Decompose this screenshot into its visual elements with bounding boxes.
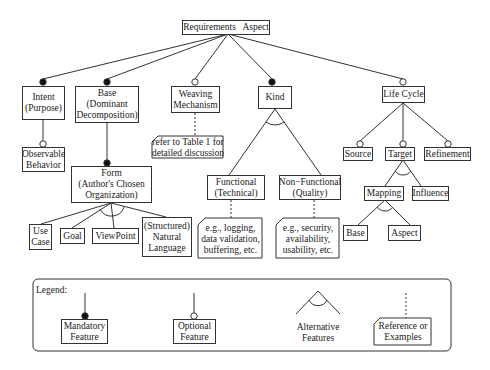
node-label: Behavior (26, 160, 61, 171)
edge-target-mapping (385, 160, 403, 186)
node-label: Kind (266, 92, 285, 103)
node-label: Source (345, 149, 371, 160)
edge-target-influence (403, 160, 421, 186)
node-viewpoint: ViewPoint (92, 228, 139, 244)
node-goal: Goal (60, 228, 85, 244)
note-text: data validation, (201, 234, 260, 245)
node-label: Life Cycle (383, 89, 423, 100)
node-label: Mapping (367, 188, 401, 199)
legend-label: Alternative (297, 322, 340, 333)
legend-label: Optional (178, 321, 211, 332)
edge-root-base (107, 34, 228, 79)
node-label: Functional (216, 177, 257, 188)
alt-arc-target (395, 171, 411, 175)
node-life-cycle: Life Cycle (382, 86, 425, 103)
node-label: Goal (63, 231, 81, 242)
note-text: buffering, etc. (204, 245, 257, 256)
edge-kind-nonfunctional (275, 109, 321, 175)
node-label: Case (31, 237, 49, 248)
legend-label: Features (302, 333, 334, 344)
node-label: (Quality) (293, 188, 328, 199)
note-text: detailed discussion (152, 148, 224, 159)
optional-circle-lifecycle (400, 79, 406, 85)
alt-arc-kind (266, 122, 284, 125)
node-weaving-mechanism: Weaving Mechanism (171, 86, 220, 113)
mandatory-dot-kind (269, 79, 275, 85)
node-label: (Author's Chosen (78, 179, 144, 190)
node-label: Organization) (85, 190, 138, 201)
mandatory-dot-base (104, 79, 110, 85)
edge-mapping-base (358, 200, 385, 225)
legend-label: Reference or (379, 321, 428, 332)
node-label: Form (101, 168, 122, 179)
node-base: Base (Dominant Decomposition) (75, 86, 139, 123)
node-mapping-base: Base (343, 225, 368, 241)
node-influence: Influence (412, 186, 449, 201)
node-label: Base (346, 228, 364, 239)
edge-lifecycle-refinement (403, 103, 448, 141)
node-kind: Kind (258, 86, 292, 109)
edge-mapping-aspect (385, 200, 410, 225)
node-use-case: Use Case (29, 224, 52, 250)
legend-alt-left (296, 291, 318, 314)
node-label: (Dominant (86, 99, 127, 110)
node-refinement: Refinement (424, 147, 471, 161)
node-mapping: Mapping (364, 186, 404, 201)
legend-label: Mandatory (64, 321, 106, 332)
node-label: Intent (32, 92, 54, 103)
legend-alt-right (318, 291, 340, 314)
note-text: e.g., logging, (206, 223, 256, 234)
node-non-functional: Non−Functional (Quality) (279, 175, 341, 200)
node-label: (Technical) (214, 188, 257, 199)
node-label: Non−Functional (279, 177, 341, 188)
note-nonfunctional-examples: e.g., security, availability, usability,… (276, 219, 340, 259)
node-label: Weaving (179, 89, 213, 100)
node-label: (Purpose) (25, 103, 62, 114)
note-weaving-reference: refer to Table 1 for detailed discussion (152, 136, 224, 159)
note-text: availability, (286, 234, 331, 245)
node-label: Requirements Aspect (183, 22, 269, 33)
node-label: Influence (413, 188, 449, 199)
edge-lifecycle-source (360, 103, 403, 141)
legend-alt-arc (309, 300, 327, 306)
legend-label: Feature (70, 332, 99, 343)
mandatory-dot-intent (40, 79, 46, 85)
edge-root-kind (228, 34, 272, 79)
node-mapping-aspect: Aspect (388, 225, 421, 241)
legend-label: Feature (180, 332, 209, 343)
node-label: Base (98, 88, 116, 99)
node-source: Source (343, 147, 373, 161)
note-text: e.g., security, (283, 223, 333, 234)
legend-mandatory-feature: Mandatory Feature (61, 319, 108, 344)
node-label: Use (33, 226, 48, 237)
optional-circle-weaving (192, 79, 198, 85)
node-target: Target (385, 147, 415, 161)
node-natural-language: (Structured) Natural Language (142, 217, 192, 257)
legend-alternative-features: Alternative Features (286, 321, 350, 345)
edge-form-usecase (41, 203, 111, 224)
node-label: Target (388, 149, 412, 160)
edge-form-goal (72, 203, 111, 228)
node-intent: Intent (Purpose) (22, 86, 65, 120)
feature-diagram: Requirements Aspect Intent (Purpose) Bas… (0, 0, 490, 370)
node-requirements-aspect: Requirements Aspect (182, 20, 270, 35)
note-functional-examples: e.g., logging, data validation, bufferin… (198, 219, 263, 259)
edge-root-lifecycle (228, 34, 403, 79)
legend-title: Legend: (36, 285, 67, 296)
node-label: Observable (22, 149, 65, 160)
node-label: Language (148, 243, 185, 254)
note-text: usability, etc. (283, 245, 333, 256)
edge-kind-functional (229, 109, 275, 175)
legend-label: Examples (384, 332, 421, 343)
legend-optional-feature: Optional Feature (173, 319, 216, 344)
legend-reference-examples: Reference or Examples (374, 319, 432, 345)
node-functional: Functional (Technical) (207, 175, 265, 200)
edge-form-natural (111, 203, 166, 217)
node-label: Decomposition) (76, 110, 137, 121)
node-label: Refinement (425, 149, 469, 160)
node-label: (Structured) (144, 221, 190, 232)
alt-arc-mapping (377, 207, 393, 211)
node-label: Mechanism (173, 100, 217, 111)
node-form: Form (Author's Chosen Organization) (71, 166, 152, 203)
node-label: Natural (153, 232, 182, 243)
